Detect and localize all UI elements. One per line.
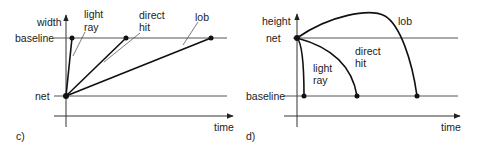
y-axis-label: width — [36, 16, 62, 28]
baseline-label: baseline — [15, 32, 54, 44]
panel-caption: d) — [246, 130, 255, 142]
light-ray-endpoint — [302, 94, 307, 99]
light-ray-label-1: light — [313, 62, 332, 74]
lob-trajectory — [66, 38, 211, 96]
light-ray-trajectory — [66, 38, 72, 96]
diagram-canvas: width light ray direct hit lob baseline … — [0, 0, 482, 146]
lob-label: lob — [398, 15, 412, 27]
x-axis-label: time — [441, 121, 461, 133]
x-axis-label: time — [214, 121, 234, 133]
panel-caption: c) — [16, 130, 25, 142]
light-ray-endpoint — [70, 36, 75, 41]
baseline-label: baseline — [246, 90, 285, 102]
direct-hit-endpoint — [355, 94, 360, 99]
direct-hit-label-2: hit — [355, 57, 366, 69]
origin-dot — [294, 35, 300, 41]
light-ray-leader — [73, 32, 85, 56]
lob-endpoint — [209, 36, 214, 41]
lob-label: lob — [195, 11, 209, 23]
direct-hit-label-1: direct — [355, 45, 381, 57]
lob-endpoint — [415, 94, 420, 99]
direct-hit-endpoint — [124, 36, 129, 41]
light-ray-label-2: ray — [84, 21, 99, 33]
lob-leader — [183, 22, 198, 45]
y-axis-label: height — [262, 15, 291, 27]
panel-d: height net baseline light ray direct hit… — [246, 13, 461, 142]
direct-hit-label-2: hit — [139, 21, 150, 33]
direct-hit-label-1: direct — [139, 9, 165, 21]
light-ray-label-1: light — [84, 8, 103, 20]
origin-dot — [63, 93, 69, 99]
light-ray-label-2: ray — [313, 74, 328, 86]
net-label: net — [266, 32, 281, 44]
panel-c: width light ray direct hit lob baseline … — [15, 8, 234, 142]
net-label: net — [35, 90, 50, 102]
light-ray-trajectory — [297, 38, 304, 96]
direct-hit-trajectory — [66, 38, 126, 96]
direct-hit-leader — [104, 33, 140, 62]
